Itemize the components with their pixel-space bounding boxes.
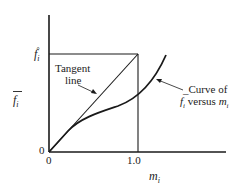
y-origin-label: 0 [39,145,45,156]
y-axis-label-sub: i [16,100,18,109]
x-axis-label-m: m [149,169,158,183]
tangent-arrowhead-icon [91,89,97,94]
curve-annotation-line1: _Curve of [183,84,227,95]
y-axis-label-overbar [13,91,22,92]
y-tick-sup: ° [37,46,40,55]
curve-annotation-m-sub: i [227,102,229,110]
curve-annotation-versus: versus [185,95,219,107]
y-axis-label: fi [13,94,19,109]
x-tick-label-one: 1.0 [127,155,141,166]
y-tick-sub: i [37,54,39,63]
partial-fugacity-diagram: fi° fi 0 0 1.0 mi Tangent line _Curve of… [0,0,244,187]
x-axis-label-sub: i [158,176,160,185]
x-axis-label: mi [149,170,160,185]
tangent-annotation-line2: line [65,75,82,86]
tangent-annotation-line1: Tangent [55,63,90,74]
curve-annotation-line2: fi versus mi [180,96,229,110]
curve-leader-line [158,80,183,90]
y-tick-label-f-standard: fi° [34,47,43,63]
curve-annotation-m: m [219,95,227,107]
x-origin-label: 0 [46,155,52,166]
